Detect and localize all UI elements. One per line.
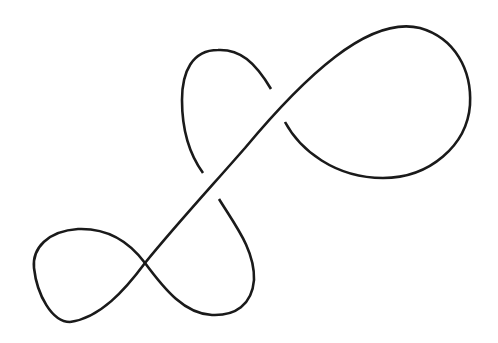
- knot-diagram: [0, 0, 498, 343]
- lower-loop: [145, 199, 254, 315]
- upper-small-loop: [182, 50, 271, 173]
- main-diagonal-strand: [70, 26, 470, 322]
- bottom-left-loop: [34, 229, 145, 322]
